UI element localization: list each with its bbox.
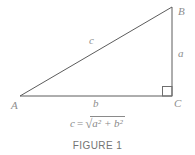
side-label-c: c (89, 34, 94, 46)
triangle-outline (20, 7, 172, 96)
formula-radicand: a² + b² (90, 116, 125, 130)
equals-sign: = (75, 117, 85, 129)
side-label-b: b (93, 97, 99, 109)
right-angle-marker (163, 87, 173, 97)
figure-caption: FIGURE 1 (0, 140, 195, 151)
side-label-a: a (178, 47, 184, 59)
vertex-label-c: C (174, 97, 182, 109)
vertex-label-a: A (10, 99, 18, 111)
triangle-diagram: A B C c a b (0, 0, 195, 112)
figure-panel: A B C c a b c=√a² + b² FIGURE 1 (0, 0, 195, 155)
pythagorean-formula: c=√a² + b² (0, 115, 195, 132)
vertex-label-b: B (178, 5, 185, 17)
